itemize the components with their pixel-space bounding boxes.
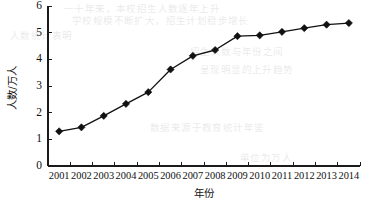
data-point-marker [212,46,219,53]
x-axis-tick-label: 2008 [205,170,226,181]
x-axis-title: 年份 [194,187,215,199]
y-axis-tick-label: 3 [36,79,42,91]
data-point-marker [301,25,308,32]
data-point-marker [278,28,285,35]
y-axis-tick-label: 1 [36,132,42,144]
x-axis-tick-label: 2011 [272,170,292,181]
x-axis-tick-label: 2009 [227,170,248,181]
data-point-marker [234,33,241,40]
data-point-marker [100,112,107,119]
data-point-marker [56,128,63,135]
line-chart-plot: 0123456 20012002200320042005200620072008… [0,0,371,203]
data-point-marker [189,52,196,59]
x-axis-tick-label: 2012 [294,170,315,181]
x-axis-ticks [48,162,360,166]
y-axis-tick-label: 6 [36,0,42,11]
data-point-marker [323,21,330,28]
y-axis: 0123456 [36,0,52,171]
x-axis-tick-label: 2004 [116,170,138,181]
data-point-marker [256,32,263,39]
x-axis-tick-label: 2005 [138,170,159,181]
x-axis-tick-label: 2007 [182,170,203,181]
y-axis-title: 人数/万人 [6,65,18,110]
y-axis-tick-label: 4 [36,52,42,64]
chart-container: 一十年来，本校招生人数逐年上升 学校规模不断扩大，招生计划稳步增长 人数统计表明… [0,0,371,203]
y-axis-tick-label: 0 [36,159,42,171]
y-axis-ticks [48,6,52,166]
x-axis: 2001200220032004200520062007200820092010… [48,162,360,181]
y-axis-tick-label: 2 [36,106,42,118]
y-axis-tick-label: 5 [36,26,42,38]
data-point-marker [345,19,352,26]
x-axis-tick-label: 2001 [49,170,70,181]
x-axis-tick-label: 2013 [316,170,337,181]
x-axis-tick-label: 2006 [160,170,181,181]
x-axis-tick-labels: 2001200220032004200520062007200820092010… [49,170,360,181]
x-axis-tick-label: 2002 [71,170,92,181]
y-axis-tick-labels: 0123456 [36,0,42,171]
x-axis-tick-label: 2010 [249,170,270,181]
x-axis-tick-label: 2003 [93,170,114,181]
data-series [56,19,353,134]
x-axis-tick-label: 2014 [338,170,360,181]
data-point-marker [78,124,85,131]
data-point-marker [122,100,129,107]
